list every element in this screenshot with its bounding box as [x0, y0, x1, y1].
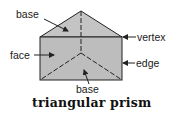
label-vertex: vertex	[137, 32, 166, 43]
label-base-bottom: base	[76, 84, 99, 95]
diagram-title: triangular prism	[32, 97, 151, 110]
triangular-prism-diagram: base vertex face edge base triangular pr…	[0, 0, 175, 114]
label-base-top: base	[16, 9, 39, 20]
label-edge: edge	[136, 58, 159, 69]
label-face: face	[10, 50, 30, 61]
